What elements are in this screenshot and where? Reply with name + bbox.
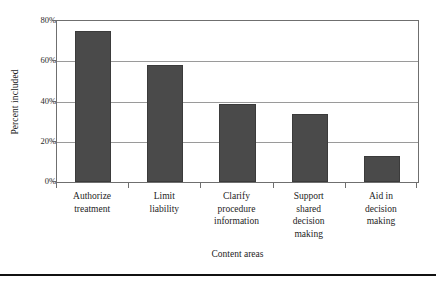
bar-chart-figure: Percent included 0%20%40%60%80% Authoriz… [0,0,436,283]
x-tick-mark [345,183,346,188]
plot-area [56,20,419,183]
x-category-label-line: Aid in [345,190,417,203]
x-tick-mark [200,183,201,188]
footer-rule [0,274,436,276]
x-category-label: Aid indecisionmaking [345,190,417,228]
bar[interactable] [75,31,111,182]
x-tick-mark [56,183,57,188]
x-category-label-line: treatment [56,203,128,216]
x-category-label: Limitliability [128,190,200,215]
x-category-label-line: procedure [200,203,272,216]
y-tick-label: 80% [6,15,56,25]
x-category-label: Clarifyprocedureinformation [200,190,272,228]
y-tick-label: 20% [6,136,56,146]
x-tick-mark [416,183,417,188]
x-category-label: Authorizetreatment [56,190,128,215]
x-axis-title: Content areas [56,249,419,259]
x-category-label-line: Clarify [200,190,272,203]
y-tick-label: 60% [6,55,56,65]
y-axis-ticks: 0%20%40%60%80% [0,20,56,183]
bar[interactable] [219,104,255,182]
bar[interactable] [292,114,328,182]
bar[interactable] [364,156,400,182]
x-axis-category-labels: AuthorizetreatmentLimitliabilityClarifyp… [56,190,419,248]
x-category-label-line: information [200,215,272,228]
gridline [57,61,418,62]
x-axis-ticks [56,183,419,188]
x-tick-mark [273,183,274,188]
y-tick-label: 0% [6,176,56,186]
x-category-label-line: decision [345,203,417,216]
x-tick-mark [128,183,129,188]
x-category-label-line: making [273,228,345,241]
x-category-label-line: shared [273,203,345,216]
gridline [57,102,418,103]
x-category-label-line: decision [273,215,345,228]
x-category-label-line: Limit [128,190,200,203]
bar[interactable] [147,65,183,182]
x-category-label-line: Authorize [56,190,128,203]
x-category-label-line: liability [128,203,200,216]
x-category-label-line: Support [273,190,345,203]
x-category-label: Supportshareddecisionmaking [273,190,345,240]
y-tick-label: 40% [6,96,56,106]
x-category-label-line: making [345,215,417,228]
